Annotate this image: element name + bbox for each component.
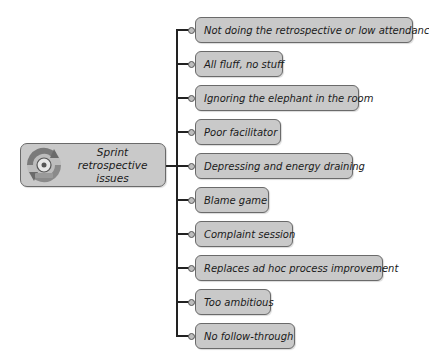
branch-node[interactable]: Ignoring the elephant in the room xyxy=(176,85,359,111)
connector-knob-icon xyxy=(188,95,195,102)
connector-knob-icon xyxy=(188,299,195,306)
branch-label[interactable]: No follow-through xyxy=(195,323,295,349)
cycle-arrows-icon xyxy=(24,145,64,185)
connector-knob-icon xyxy=(188,129,195,136)
connector-knob-icon xyxy=(188,27,195,34)
branch-label[interactable]: Replaces ad hoc process improvement xyxy=(195,255,383,281)
connector-knob-icon xyxy=(188,231,195,238)
branch-node[interactable]: Poor facilitator xyxy=(176,119,281,145)
branch-node[interactable]: Replaces ad hoc process improvement xyxy=(176,255,383,281)
branch-label[interactable]: Depressing and energy draining xyxy=(195,153,353,179)
branch-node[interactable]: Blame game xyxy=(176,187,269,213)
branch-label[interactable]: Too ambitious xyxy=(195,289,271,315)
branch-node[interactable]: Complaint session xyxy=(176,221,293,247)
branch-node[interactable]: Not doing the retrospective or low atten… xyxy=(176,17,413,43)
center-node[interactable]: Sprint retrospective issues xyxy=(20,143,166,187)
branch-node[interactable]: No follow-through xyxy=(176,323,295,349)
connector-knob-icon xyxy=(188,163,195,170)
branch-label[interactable]: Not doing the retrospective or low atten… xyxy=(195,17,413,43)
connector-knob-icon xyxy=(188,333,195,340)
branch-node[interactable]: Too ambitious xyxy=(176,289,271,315)
center-node-label: Sprint retrospective issues xyxy=(64,146,165,185)
branch-label[interactable]: All fluff, no stuff xyxy=(195,51,283,77)
connector-knob-icon xyxy=(188,61,195,68)
branch-node[interactable]: Depressing and energy draining xyxy=(176,153,353,179)
branch-label[interactable]: Ignoring the elephant in the room xyxy=(195,85,359,111)
branch-node[interactable]: All fluff, no stuff xyxy=(176,51,283,77)
mind-map-canvas: Sprint retrospective issues Not doing th… xyxy=(0,0,429,361)
connector-knob-icon xyxy=(188,197,195,204)
branch-label[interactable]: Poor facilitator xyxy=(195,119,281,145)
branch-label[interactable]: Complaint session xyxy=(195,221,293,247)
connector-knob-icon xyxy=(188,265,195,272)
branch-label[interactable]: Blame game xyxy=(195,187,269,213)
